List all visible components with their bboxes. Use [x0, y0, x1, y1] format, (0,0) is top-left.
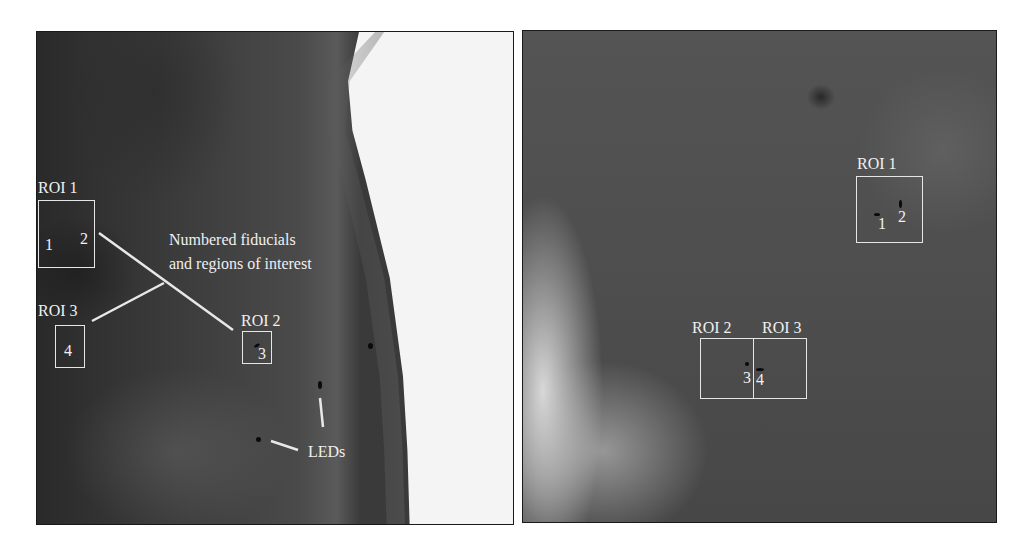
right-fiducial-4: 4	[756, 372, 764, 388]
right-fiducial-marker-2	[899, 200, 902, 208]
left-xray-panel	[36, 31, 514, 525]
right-fiducial-3: 3	[743, 370, 751, 386]
right-roi2-label: ROI 2	[692, 320, 732, 336]
left-fiducial-1: 1	[45, 237, 53, 253]
annotation-leds: LEDs	[308, 444, 345, 460]
left-roi3-label: ROI 3	[38, 303, 78, 319]
left-fiducial-4: 4	[64, 343, 72, 359]
led-marker	[368, 343, 373, 349]
right-fiducial-marker-3	[745, 362, 749, 366]
left-roi2-label: ROI 2	[241, 313, 281, 329]
right-roi1-box	[856, 176, 923, 243]
right-fiducial-1: 1	[878, 216, 886, 232]
annotation-fiducials-line1: Numbered fiducials	[169, 232, 296, 248]
left-roi2-box	[242, 331, 272, 364]
left-roi1-label: ROI 1	[38, 180, 78, 196]
left-fiducial-2: 2	[80, 231, 88, 247]
led-marker	[256, 437, 261, 442]
right-xray-panel	[522, 30, 997, 523]
annotation-fiducials-line2: and regions of interest	[169, 256, 312, 272]
led-marker	[318, 381, 322, 389]
right-roi1-label: ROI 1	[857, 156, 897, 172]
left-fiducial-3: 3	[258, 346, 266, 362]
right-fiducial-2: 2	[898, 209, 906, 225]
right-roi3-label: ROI 3	[762, 320, 802, 336]
